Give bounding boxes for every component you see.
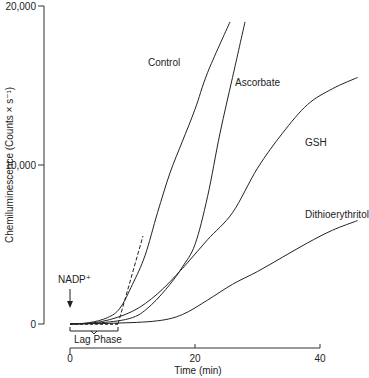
x-tick-label: 20	[189, 353, 201, 364]
label-control: Control	[148, 57, 180, 68]
y-axis-title: Chemiluminescence (Counts × s⁻¹)	[4, 87, 15, 243]
label-dithioerythritol: Dithioerythritol	[305, 209, 369, 220]
y-tick-label: 20,000	[5, 1, 36, 12]
x-axis-title: Time (min)	[174, 365, 221, 376]
x-tick-label: 40	[314, 353, 326, 364]
lag-phase-label: Lag Phase	[74, 334, 122, 345]
label-gsh: GSH	[305, 137, 327, 148]
nadp-annotation: NADP⁺	[58, 274, 91, 308]
nadp-label: NADP⁺	[58, 274, 91, 285]
label-ascorbate: Ascorbate	[235, 77, 280, 88]
lag-tangent-line	[118, 236, 143, 324]
y-tick-label: 0	[30, 319, 36, 330]
chemiluminescence-chart: 20,000 10,000 0 Chemiluminescence (Count…	[0, 0, 369, 378]
arrow-head-icon	[67, 301, 73, 308]
y-axis: 20,000 10,000 0 Chemiluminescence (Count…	[4, 1, 44, 330]
x-axis: 0 20 40 Time (min)	[67, 344, 326, 376]
lag-phase-bracket: Lag Phase	[70, 327, 122, 345]
x-tick-label: 0	[67, 353, 73, 364]
curve-dithioerythritol	[70, 221, 358, 324]
curves	[70, 22, 358, 324]
curve-gsh	[70, 78, 358, 325]
